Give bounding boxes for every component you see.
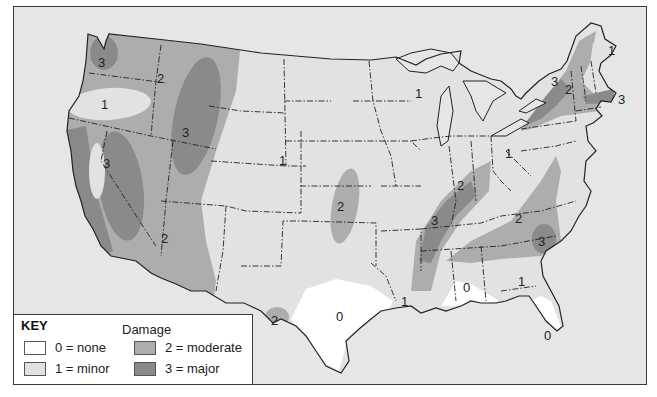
label-wyoming: 1 (279, 153, 286, 168)
swatch-major (134, 362, 156, 376)
label-maine: 1 (608, 43, 615, 58)
label-ohio: 1 (505, 146, 512, 161)
key-label-moderate: 2 = moderate (165, 340, 242, 355)
map-key: KEY Damage 0 = none 1 = minor 2 = modera… (13, 314, 253, 385)
label-tennessee: 3 (431, 213, 438, 228)
key-label-major: 3 = major (165, 361, 220, 376)
label-indiana: 2 (457, 178, 464, 193)
label-newyork: 3 (551, 74, 558, 89)
label-oregon: 1 (101, 97, 108, 112)
label-rockies: 3 (182, 125, 189, 140)
label-gulf: 0 (463, 280, 470, 295)
key-item-minor: 1 = minor (24, 361, 110, 376)
label-wisconsin: 1 (415, 86, 422, 101)
label-louisiana: 1 (401, 294, 408, 309)
key-item-moderate: 2 = moderate (134, 340, 242, 355)
swatch-minor (24, 362, 46, 376)
label-texas: 0 (336, 309, 343, 324)
label-bigbend: 2 (271, 313, 278, 328)
swatch-none (24, 341, 46, 355)
key-title: KEY (21, 318, 48, 333)
swatch-moderate (134, 341, 156, 355)
label-georgia: 1 (518, 274, 525, 289)
label-virginia: 2 (515, 211, 522, 226)
label-arizona: 2 (161, 231, 168, 246)
key-subtitle: Damage (122, 322, 171, 337)
zone-none-texas (291, 279, 393, 371)
key-label-none: 0 = none (55, 340, 106, 355)
label-mass: 3 (618, 92, 625, 107)
key-item-major: 3 = major (134, 361, 220, 376)
label-kansas: 2 (337, 199, 344, 214)
label-scarolina: 3 (538, 234, 545, 249)
label-wa-coast: 3 (98, 55, 105, 70)
label-idaho: 2 (157, 71, 164, 86)
key-label-minor: 1 = minor (55, 361, 110, 376)
label-sierra: 3 (103, 156, 110, 171)
key-item-none: 0 = none (24, 340, 106, 355)
label-florida: 0 (544, 328, 551, 343)
label-newengland: 2 (565, 82, 572, 97)
